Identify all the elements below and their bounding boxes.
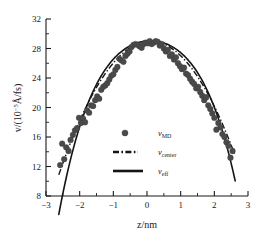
data-point — [230, 148, 236, 154]
data-point — [222, 134, 228, 140]
data-point — [57, 162, 63, 168]
x-tick-label: −2 — [75, 200, 85, 210]
y-tick-label: 24 — [32, 73, 42, 83]
data-point — [181, 65, 187, 71]
x-tick-label: −1 — [109, 200, 119, 210]
velocity-profile-chart: −3−2−101238121620242832 z/nm v/(10−5Å/fs… — [0, 0, 275, 237]
data-point — [121, 59, 127, 65]
y-tick-label: 8 — [37, 191, 42, 201]
data-point — [165, 47, 171, 53]
y-axis-title-prefix: v/(10 — [12, 111, 24, 132]
data-point — [90, 103, 96, 109]
y-tick-label: 28 — [32, 44, 42, 54]
data-point — [211, 115, 217, 121]
y-tick-label: 12 — [32, 162, 41, 172]
x-tick-label: 2 — [212, 200, 217, 210]
chart-figure: −3−2−101238121620242832 z/nm v/(10−5Å/fs… — [0, 0, 275, 237]
y-axis-title-suffix: Å/fs) — [12, 84, 24, 105]
data-point — [74, 125, 80, 131]
data-point — [217, 125, 223, 131]
data-point — [195, 84, 201, 90]
x-tick-label: 1 — [178, 200, 183, 210]
y-tick-label: 32 — [32, 14, 41, 24]
x-axis-title: z/nm — [137, 219, 157, 230]
x-tick-label: 3 — [246, 200, 251, 210]
x-tick-label: 0 — [145, 200, 150, 210]
data-point — [68, 137, 74, 143]
data-point — [82, 119, 88, 125]
y-tick-label: 16 — [32, 132, 42, 142]
data-point — [96, 96, 102, 102]
data-point — [203, 94, 209, 100]
data-point — [86, 110, 92, 116]
data-point — [228, 155, 234, 161]
legend-marker-circle — [122, 130, 128, 136]
x-tick-label: −3 — [41, 200, 51, 210]
data-point — [226, 143, 232, 149]
data-point — [114, 64, 120, 70]
y-axis-title-exponent: −5 — [12, 104, 19, 111]
data-point — [61, 156, 67, 162]
data-point — [66, 148, 72, 154]
y-tick-label: 20 — [32, 103, 42, 113]
data-point — [173, 54, 179, 60]
